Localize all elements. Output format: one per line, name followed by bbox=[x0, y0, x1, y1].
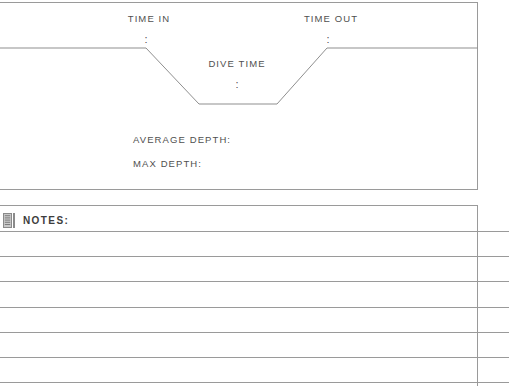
dive-profile-chart bbox=[0, 3, 478, 191]
notes-input-line[interactable] bbox=[0, 282, 509, 306]
dive-log-page: TIME IN : TIME OUT : DIVE TIME : AVERAGE… bbox=[0, 0, 509, 386]
notes-input-line[interactable] bbox=[0, 308, 509, 332]
notes-title: NOTES: bbox=[23, 215, 69, 226]
time-in-field[interactable]: : bbox=[144, 33, 147, 45]
note-page-icon bbox=[3, 213, 16, 228]
notes-input-line[interactable] bbox=[0, 232, 509, 256]
notes-input-line[interactable] bbox=[0, 257, 509, 281]
dive-time-label: DIVE TIME bbox=[208, 58, 265, 69]
dive-profile-panel: TIME IN : TIME OUT : DIVE TIME : AVERAGE… bbox=[0, 2, 478, 190]
notes-input-line[interactable] bbox=[0, 333, 509, 357]
time-out-field[interactable]: : bbox=[326, 33, 329, 45]
dive-time-field[interactable]: : bbox=[235, 78, 238, 90]
notes-header: NOTES: bbox=[3, 210, 69, 231]
average-depth-label: AVERAGE DEPTH: bbox=[133, 134, 231, 145]
time-in-label: TIME IN bbox=[128, 13, 171, 24]
notes-input-line[interactable] bbox=[0, 358, 509, 382]
dive-profile-line bbox=[0, 48, 478, 104]
max-depth-label: MAX DEPTH: bbox=[133, 158, 202, 169]
time-out-label: TIME OUT bbox=[304, 13, 358, 24]
